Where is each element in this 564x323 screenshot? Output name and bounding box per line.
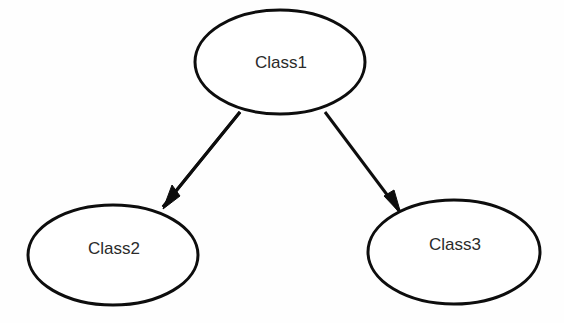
edge-group: [163, 112, 401, 214]
node-group: Class1 Class2 Class3: [28, 10, 540, 305]
node-label-class2: Class2: [88, 239, 140, 258]
edge-class1-class3[interactable]: [325, 112, 401, 214]
node-class1[interactable]: Class1: [195, 10, 365, 114]
class-diagram: Class1 Class2 Class3: [0, 0, 564, 323]
node-class2[interactable]: Class2: [28, 205, 198, 305]
edge-class1-class2[interactable]: [163, 112, 240, 209]
node-label-class1: Class1: [255, 53, 307, 72]
node-label-class3: Class3: [429, 235, 481, 254]
node-class3[interactable]: Class3: [368, 200, 540, 304]
diagram-canvas: Class1 Class2 Class3: [0, 0, 564, 323]
